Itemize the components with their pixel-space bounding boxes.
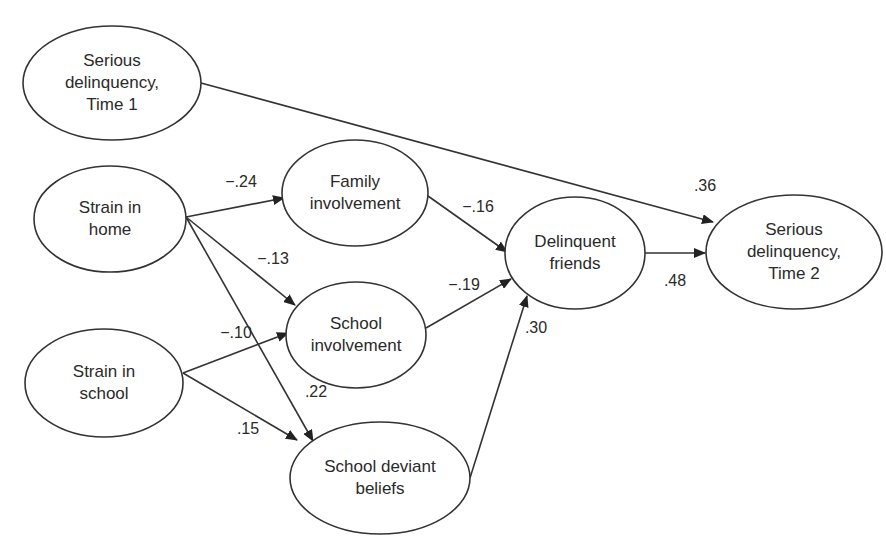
- node-label-line: Time 2: [747, 263, 841, 285]
- node-label-line: involvement: [310, 193, 401, 215]
- node-label-line: Family: [310, 171, 401, 193]
- path-coefficient-sdb-to-df: .30: [525, 319, 547, 337]
- node-label-line: school: [73, 383, 135, 405]
- node-label-line: Time 1: [65, 94, 159, 116]
- path-coefficient-sh-to-si: −.13: [257, 250, 289, 268]
- path-arrow-sh-to-fi: [186, 198, 284, 217]
- node-label-line: beliefs: [324, 478, 436, 500]
- node-label-sh: Strain inhome: [79, 197, 141, 241]
- node-label-line: home: [79, 219, 141, 241]
- path-arrow-sdb-to-df: [470, 296, 527, 478]
- path-coefficient-sd1-to-sd2: .36: [694, 177, 716, 195]
- node-label-line: delinquency,: [65, 72, 159, 94]
- node-label-line: friends: [534, 253, 615, 275]
- node-label-line: Delinquent: [534, 231, 615, 253]
- path-coefficient-ss-to-si: −.10: [220, 324, 252, 342]
- node-label-line: Strain in: [79, 197, 141, 219]
- node-label-line: Serious: [65, 50, 159, 72]
- path-diagram: .36−.24−.13.22−.10.15−.16−.19.30.48Serio…: [0, 0, 886, 538]
- path-coefficient-ss-to-sdb: .15: [237, 420, 259, 438]
- path-coefficient-sh-to-fi: −.24: [225, 173, 257, 191]
- path-coefficient-sh-to-sdb: .22: [305, 383, 327, 401]
- node-label-line: Serious: [747, 219, 841, 241]
- path-coefficient-fi-to-df: −.16: [462, 198, 494, 216]
- node-label-line: delinquency,: [747, 241, 841, 263]
- node-label-line: School: [311, 313, 402, 335]
- node-label-sd2: Seriousdelinquency,Time 2: [747, 219, 841, 285]
- node-label-ss: Strain inschool: [73, 361, 135, 405]
- node-label-line: Strain in: [73, 361, 135, 383]
- node-label-fi: Familyinvolvement: [310, 171, 401, 215]
- node-label-df: Delinquentfriends: [534, 231, 615, 275]
- node-label-sdb: School deviantbeliefs: [324, 456, 436, 500]
- path-arrow-sd1-to-sd2: [201, 83, 713, 222]
- path-coefficient-df-to-sd2: .48: [664, 272, 686, 290]
- node-label-line: involvement: [311, 335, 402, 357]
- node-label-line: School deviant: [324, 456, 436, 478]
- node-label-si: Schoolinvolvement: [311, 313, 402, 357]
- node-label-sd1: Seriousdelinquency,Time 1: [65, 50, 159, 116]
- path-coefficient-si-to-df: −.19: [448, 276, 480, 294]
